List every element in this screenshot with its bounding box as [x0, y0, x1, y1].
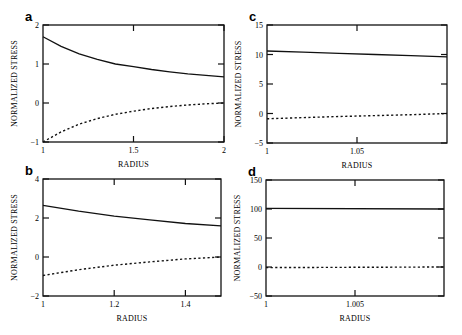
panel-b: b−202411.21.4RADIUSNORMALIZED STRESS	[10, 163, 221, 323]
x-tick-label: 1.05	[350, 147, 364, 156]
y-tick-label: 0	[258, 263, 262, 272]
solid-stress-curve	[43, 37, 224, 77]
y-tick-label: 2	[35, 214, 39, 223]
y-tick-label: 5	[259, 80, 263, 89]
x-tick-label: 1.005	[346, 300, 364, 309]
panel-letter: a	[25, 9, 33, 24]
y-tick-label: 0	[259, 110, 263, 119]
x-tick-label: 1	[41, 300, 45, 309]
panel-d: d−5005010015011.005RADIUSNORMALIZED STRE…	[233, 164, 444, 323]
y-tick-label: 2	[35, 21, 39, 30]
solid-stress-curve	[43, 205, 221, 226]
y-axis-label: NORMALIZED STRESS	[234, 41, 243, 128]
x-tick-label: 1.4	[180, 300, 190, 309]
x-axis-label: RADIUS	[118, 160, 149, 169]
y-tick-label: −5	[254, 139, 263, 148]
y-tick-label: 150	[250, 176, 262, 185]
y-tick-label: −1	[30, 138, 39, 147]
solid-stress-curve	[266, 208, 444, 209]
y-tick-label: −2	[30, 292, 39, 301]
y-tick-label: 1	[35, 60, 39, 69]
x-tick-label: 2	[222, 146, 226, 155]
plot-frame	[43, 179, 221, 296]
y-axis-label: NORMALIZED STRESS	[233, 195, 242, 282]
dotted-stress-curve	[267, 114, 447, 119]
y-axis-label: NORMALIZED STRESS	[10, 40, 19, 127]
solid-stress-curve	[267, 51, 447, 57]
panel-c: c−505101511.05RADIUSNORMALIZED STRESS	[234, 9, 447, 170]
x-tick-label: 1	[41, 146, 45, 155]
y-axis-label: NORMALIZED STRESS	[10, 194, 19, 281]
dotted-stress-curve	[266, 267, 444, 268]
dotted-stress-curve	[43, 257, 221, 276]
x-axis-label: RADIUS	[340, 314, 371, 323]
x-tick-label: 1	[264, 300, 268, 309]
x-axis-label: RADIUS	[117, 314, 148, 323]
x-tick-label: 1.5	[129, 146, 139, 155]
y-tick-label: 0	[35, 253, 39, 262]
y-tick-label: 4	[35, 175, 39, 184]
panel-a: a−101211.52RADIUSNORMALIZED STRESS	[10, 9, 226, 169]
x-tick-label: 1.2	[109, 300, 119, 309]
y-tick-label: 0	[35, 99, 39, 108]
y-tick-label: −50	[249, 292, 262, 301]
figure-canvas: a−101211.52RADIUSNORMALIZED STRESSb−2024…	[0, 0, 462, 335]
y-tick-label: 50	[254, 234, 262, 243]
x-tick-label: 1	[265, 147, 269, 156]
plot-frame	[267, 25, 447, 143]
plot-frame	[266, 180, 444, 296]
y-tick-label: 100	[250, 205, 262, 214]
y-tick-label: 15	[255, 21, 263, 30]
plot-frame	[43, 25, 224, 142]
x-axis-label: RADIUS	[342, 161, 373, 170]
panel-letter: b	[25, 163, 33, 178]
y-tick-label: 10	[255, 51, 263, 60]
